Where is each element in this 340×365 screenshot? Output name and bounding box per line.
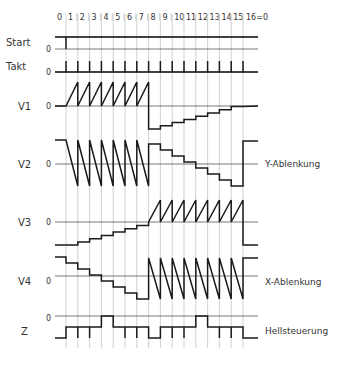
column-label: 1 (68, 13, 73, 22)
signal-label-start: Start (6, 37, 31, 48)
column-label: 3 (92, 13, 97, 22)
zero-lines (55, 37, 258, 316)
column-label: 4 (103, 13, 108, 22)
column-label: 7 (139, 13, 144, 22)
annotation-y-ablenkung: Y-Ablenkung (264, 159, 320, 169)
v3-trace (55, 200, 258, 245)
zero-label-takt: 0 (46, 68, 51, 77)
timing-diagram: 012345678910111213141516=0 Start Takt V1… (0, 0, 340, 365)
column-label: 2 (80, 13, 85, 22)
column-label: 9 (162, 13, 167, 22)
signal-label-v3: V3 (18, 217, 31, 228)
zero-label-start: 0 (46, 45, 51, 54)
signal-label-v2: V2 (18, 159, 31, 170)
column-label: 5 (115, 13, 120, 22)
annotation-x-ablenkung: X-Ablenkung (265, 277, 321, 287)
column-label: 16=0 (246, 13, 268, 22)
annotation-hellsteuerung: Hellsteuerung (265, 326, 328, 336)
column-label: 8 (151, 13, 156, 22)
signal-label-v4: V4 (18, 276, 31, 287)
v2-trace (55, 140, 258, 186)
signal-label-v1: V1 (18, 101, 31, 112)
column-label: 6 (127, 13, 132, 22)
zero-label-z: 0 (46, 314, 51, 323)
zero-label-v4: 0 (46, 277, 51, 286)
zero-label-v2: 0 (46, 160, 51, 169)
takt-trace (55, 61, 258, 72)
grid-lines (66, 14, 243, 348)
signal-label-z: Z (21, 326, 28, 337)
zero-label-v3: 0 (46, 218, 51, 227)
v1-trace (55, 82, 258, 129)
z-ticks (78, 327, 231, 338)
signal-traces (55, 37, 258, 338)
column-labels: 012345678910111213141516=0 (57, 13, 268, 22)
v4-trace (55, 257, 258, 299)
zero-label-v1: 0 (46, 102, 51, 111)
signal-label-takt: Takt (5, 61, 26, 72)
column-label: 0 (57, 13, 62, 22)
z-trace (55, 316, 258, 338)
